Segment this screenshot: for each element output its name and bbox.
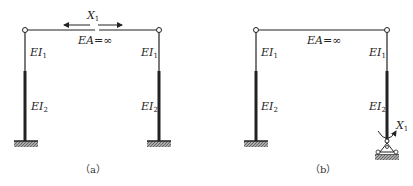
ei-label: EI1 [368,46,386,60]
ei-label: EI1 [260,46,278,60]
unknown-x1-label: X1 [395,119,408,133]
hinge-icon [157,28,162,33]
hinge-icon [385,28,390,33]
pinned-support-icon [375,139,399,160]
fixed-support-icon [14,141,38,147]
ei-label: EI2 [140,100,158,114]
ei-label: EI1 [140,46,158,60]
ei-label: EI2 [30,100,48,114]
unknown-x1-label: X1 [86,9,99,23]
caption-b: （b） [310,164,336,175]
hinge-icon [23,28,28,33]
structure-diagram: X1 EA=∞ EI1 EI1 EI2 EI2 （a） EA=∞ [0,0,413,186]
ei-label: EI2 [368,100,386,114]
fixed-support-icon [147,141,171,147]
beam-ea-label: EA=∞ [306,34,341,47]
figure-b: EA=∞ X1 EI1 EI1 EI2 EI2 （b） [244,28,408,176]
hinge-icon [254,28,259,33]
figure-a: X1 EA=∞ EI1 EI1 EI2 EI2 （a） [14,9,171,175]
beam-ea-label: EA=∞ [77,34,112,47]
ei-label: EI1 [29,46,47,60]
caption-a: （a） [80,164,106,175]
ei-label: EI2 [260,100,278,114]
fixed-support-icon [244,141,268,147]
